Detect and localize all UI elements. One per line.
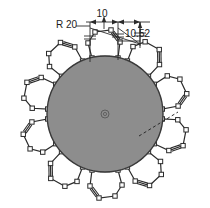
- vertex-marker: [47, 64, 51, 68]
- vertex-marker: [120, 183, 124, 187]
- vertex-marker: [63, 184, 67, 188]
- vertex-marker: [73, 45, 77, 49]
- vertex-marker: [75, 179, 79, 183]
- vertex-marker: [48, 161, 52, 165]
- vertex-marker: [147, 183, 151, 187]
- vertex-marker: [30, 120, 34, 124]
- vertex-marker: [184, 128, 188, 132]
- cad-drawing-svg: R 201010.52: [0, 0, 210, 208]
- vertex-marker: [157, 62, 161, 66]
- vertex-marker: [185, 92, 189, 96]
- vertex-marker: [88, 184, 92, 188]
- vertex-marker: [133, 179, 137, 183]
- vertex-marker: [30, 106, 34, 110]
- vertex-marker: [143, 40, 147, 44]
- vertex-marker: [113, 194, 117, 198]
- vertex-marker: [131, 44, 135, 48]
- vertex-marker: [39, 75, 43, 79]
- vertex-marker: [165, 74, 169, 78]
- vertex-marker: [176, 118, 180, 122]
- vertex-marker: [178, 77, 182, 81]
- vertex-marker: [118, 40, 122, 44]
- vertex-marker: [22, 96, 26, 100]
- vertex-marker: [97, 196, 101, 200]
- vertex-marker: [167, 148, 171, 152]
- vertex-marker: [28, 147, 32, 151]
- dimension-label-radius-dim: R 20: [56, 19, 78, 30]
- vertex-marker: [47, 51, 51, 55]
- vertex-marker: [41, 150, 45, 154]
- vertex-marker: [109, 28, 113, 32]
- drawing-canvas: R 201010.52: [0, 0, 210, 208]
- vertex-marker: [159, 172, 163, 176]
- vertex-marker: [21, 132, 25, 136]
- vertex-marker: [25, 80, 29, 84]
- vertex-marker: [176, 104, 180, 108]
- vertex-marker: [58, 40, 62, 44]
- dimension-label-distance-dim: 10.52: [125, 28, 150, 39]
- vertex-marker: [158, 159, 162, 163]
- vertex-marker: [157, 47, 161, 51]
- vertex-marker: [49, 176, 53, 180]
- vertex-marker: [181, 143, 185, 147]
- dimension-label-width-dim: 10: [96, 8, 108, 19]
- vertex-marker: [86, 41, 90, 45]
- central-disc: [47, 56, 163, 172]
